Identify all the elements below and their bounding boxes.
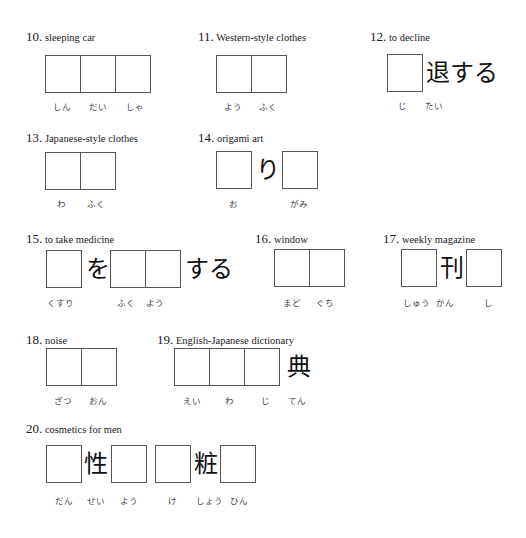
item-label: 17. weekly magazine [383, 231, 475, 247]
reading: し [484, 296, 493, 308]
item-number: 16. [255, 231, 271, 246]
item-label: 13. Japanese-style clothes [26, 130, 138, 146]
answer-box[interactable] [80, 55, 116, 93]
item-number: 11. [198, 29, 214, 44]
answer-box[interactable] [174, 348, 210, 386]
reading: よう [224, 100, 242, 112]
given-particle: を [86, 257, 110, 281]
answer-boxes [45, 55, 151, 93]
reading: しょう [196, 494, 223, 506]
reading: だん [55, 494, 73, 506]
item-english: noise [45, 335, 67, 346]
answer-box[interactable] [216, 151, 252, 189]
item-english: cosmetics for men [45, 424, 122, 435]
reading: まど [283, 296, 301, 308]
answer-boxes [274, 249, 345, 287]
given-kanji: 性 [84, 452, 108, 476]
item-number: 20. [26, 421, 42, 436]
answer-box[interactable] [155, 445, 191, 483]
reading: ひん [230, 494, 248, 506]
item-label: 18. noise [26, 332, 67, 348]
given-kanji: 粧 [194, 452, 218, 476]
reading: わ [225, 394, 234, 406]
answer-box[interactable] [145, 250, 181, 288]
reading: じ [398, 99, 407, 111]
reading: よう [146, 296, 164, 308]
answer-box[interactable] [401, 249, 437, 287]
item-label: 12. to decline [370, 29, 430, 45]
answer-boxes [174, 348, 280, 386]
item-english: to decline [389, 32, 430, 43]
reading: しん [53, 100, 71, 112]
item-number: 19. [157, 332, 173, 347]
answer-box[interactable] [45, 152, 81, 190]
answer-box[interactable] [309, 249, 345, 287]
reading: ぐち [316, 296, 334, 308]
reading: じ [261, 394, 270, 406]
given-kana: り [256, 158, 280, 182]
reading: たい [425, 99, 443, 111]
item-english: weekly magazine [402, 234, 475, 245]
given-kanji: 典 [287, 355, 311, 379]
item-label: 20. cosmetics for men [26, 421, 122, 437]
answer-box[interactable] [216, 55, 252, 93]
answer-box[interactable] [81, 348, 117, 386]
answer-boxes [216, 55, 287, 93]
reading: だい [89, 100, 107, 112]
item-label: 15. to take medicine [26, 231, 114, 247]
item-label: 19. English-Japanese dictionary [157, 332, 294, 348]
answer-box[interactable] [80, 152, 116, 190]
given-kanji: 刊 [440, 256, 464, 280]
reading: せい [87, 494, 105, 506]
answer-box[interactable] [244, 348, 280, 386]
answer-box[interactable] [111, 445, 147, 483]
answer-box[interactable] [46, 348, 82, 386]
answer-box[interactable] [274, 249, 310, 287]
item-label: 11. Western-style clothes [198, 29, 306, 45]
reading: しゃ [126, 100, 144, 112]
answer-box[interactable] [387, 54, 423, 92]
reading: えい [183, 394, 201, 406]
item-number: 12. [370, 29, 386, 44]
item-number: 15. [26, 231, 42, 246]
answer-box[interactable] [209, 348, 245, 386]
answer-box[interactable] [251, 55, 287, 93]
answer-box[interactable] [115, 55, 151, 93]
reading: ざつ [54, 394, 72, 406]
reading: け [168, 494, 177, 506]
answer-box[interactable] [466, 249, 502, 287]
given-suffix: 退する [426, 61, 498, 85]
reading: かん [436, 296, 454, 308]
reading: てん [288, 394, 306, 406]
answer-box[interactable] [46, 445, 82, 483]
answer-box[interactable] [282, 151, 318, 189]
reading: よう [120, 494, 138, 506]
item-english: origami art [217, 133, 263, 144]
reading: ふく [259, 100, 277, 112]
item-number: 17. [383, 231, 399, 246]
item-label: 16. window [255, 231, 308, 247]
reading: ふく [87, 197, 105, 209]
reading: しゅう [403, 296, 430, 308]
reading: おん [89, 394, 107, 406]
answer-box[interactable] [110, 250, 146, 288]
answer-boxes [46, 348, 117, 386]
item-number: 14. [198, 130, 214, 145]
item-english: Japanese-style clothes [45, 133, 138, 144]
answer-boxes [45, 152, 116, 190]
item-english: Western-style clothes [216, 32, 306, 43]
answer-box[interactable] [220, 445, 256, 483]
answer-box[interactable] [46, 250, 82, 288]
answer-boxes [110, 250, 181, 288]
reading: がみ [290, 197, 308, 209]
reading: くすり [47, 296, 74, 308]
item-english: sleeping car [45, 32, 95, 43]
item-english: English-Japanese dictionary [176, 335, 294, 346]
item-english: window [274, 234, 308, 245]
answer-box[interactable] [45, 55, 81, 93]
item-label: 10. sleeping car [26, 29, 95, 45]
reading: ふく [117, 296, 135, 308]
given-suffix: する [185, 257, 233, 281]
reading: わ [57, 197, 66, 209]
item-label: 14. origami art [198, 130, 263, 146]
